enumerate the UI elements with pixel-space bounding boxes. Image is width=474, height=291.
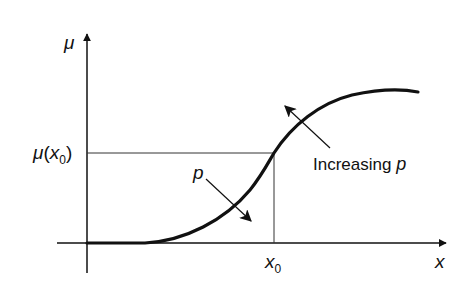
- y-axis-label-text: μ: [64, 32, 74, 53]
- increasing-text: Increasing: [313, 155, 396, 174]
- y-axis-label: μ: [64, 33, 74, 52]
- p-direction-arrow: [206, 179, 251, 221]
- x0-label: x0: [265, 252, 281, 271]
- increasing-p-arrow: [285, 106, 330, 148]
- sigmoid-diagram: μ μ(x0) x0 x Increasing p p: [0, 0, 474, 291]
- x-axis-label: x: [435, 252, 445, 271]
- mu-x0-label: μ(x0): [33, 143, 72, 162]
- p-annotation: p: [193, 163, 204, 182]
- subscript-zero: 0: [59, 153, 66, 167]
- p-symbol: p: [396, 154, 406, 174]
- p-symbol: p: [193, 162, 204, 183]
- increasing-p-annotation: Increasing p: [313, 155, 406, 173]
- x-symbol: x: [50, 142, 60, 163]
- subscript-zero: 0: [275, 262, 282, 276]
- x-symbol: x: [265, 251, 275, 272]
- mu-symbol: μ: [33, 142, 43, 163]
- close-paren: ): [66, 142, 72, 163]
- x-axis-label-text: x: [435, 251, 445, 272]
